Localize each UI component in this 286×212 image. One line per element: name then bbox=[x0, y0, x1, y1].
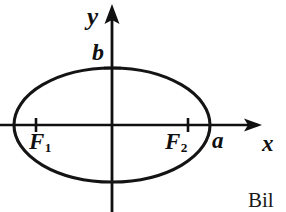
semi-major-axis-label: a bbox=[212, 129, 224, 152]
x-axis-label: x bbox=[262, 132, 274, 155]
semi-minor-axis-label: b bbox=[92, 40, 104, 64]
focus-right-label: F2 bbox=[165, 130, 187, 153]
focus-left-subscript: 1 bbox=[45, 140, 52, 155]
focus-right-letter: F bbox=[165, 129, 180, 154]
focus-left-label: F1 bbox=[29, 130, 51, 153]
y-axis-label: y bbox=[87, 4, 98, 29]
caption-fragment: Bil bbox=[248, 190, 274, 211]
ellipse-figure: y b F1 F2 a x Bil bbox=[0, 0, 286, 212]
focus-right-subscript: 2 bbox=[181, 140, 188, 155]
focus-left-letter: F bbox=[29, 129, 44, 154]
figure-canvas bbox=[0, 0, 286, 212]
